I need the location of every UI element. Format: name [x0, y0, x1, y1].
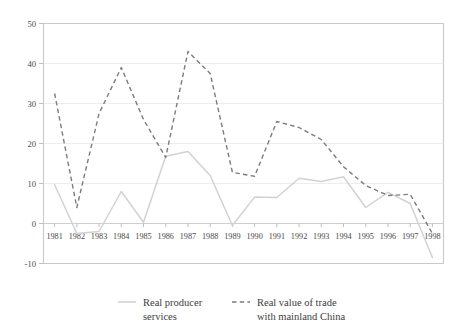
xtick-label-1985: 1985 — [135, 232, 151, 241]
xtick-label-1987: 1987 — [180, 232, 196, 241]
series-line-real-producer-services — [55, 152, 433, 258]
xtick-label-1992: 1992 — [291, 232, 307, 241]
xtick-label-1988: 1988 — [202, 232, 218, 241]
xtick-label-1981: 1981 — [46, 232, 62, 241]
gridlines — [44, 64, 444, 224]
legend: Real producer services Real value of tra… — [118, 297, 345, 322]
legend-label-producer-services-line1: Real producer — [143, 297, 203, 308]
ytick-label-minus10: -10 — [25, 259, 36, 269]
series-line-real-value-of-trade-with-mainland-china — [55, 52, 433, 234]
line-chart: 50 40 30 20 10 0 -10 1981198219831984198… — [0, 0, 463, 336]
xtick-label-1990: 1990 — [246, 232, 262, 241]
ytick-label-30: 30 — [27, 99, 36, 109]
series-group — [55, 52, 433, 258]
x-axis: 1981198219831984198519861987198819891990… — [46, 224, 440, 241]
legend-label-trade-mainland-china-line2: with mainland China — [257, 311, 345, 322]
chart-container: 50 40 30 20 10 0 -10 1981198219831984198… — [0, 0, 463, 336]
ytick-label-40: 40 — [27, 59, 36, 69]
xtick-label-1991: 1991 — [269, 232, 285, 241]
ytick-label-0: 0 — [32, 219, 36, 229]
ytick-label-50: 50 — [27, 19, 36, 29]
y-axis: 50 40 30 20 10 0 -10 — [25, 19, 44, 269]
xtick-label-1984: 1984 — [113, 232, 129, 241]
legend-label-producer-services-line2: services — [143, 311, 177, 322]
xtick-label-1997: 1997 — [402, 232, 418, 241]
legend-label-trade-mainland-china-line1: Real value of trade — [257, 297, 337, 308]
ytick-label-20: 20 — [27, 139, 36, 149]
xtick-label-1996: 1996 — [380, 232, 396, 241]
xtick-label-1993: 1993 — [313, 232, 329, 241]
xtick-label-1986: 1986 — [158, 232, 174, 241]
xtick-label-1994: 1994 — [335, 232, 351, 241]
ytick-label-10: 10 — [27, 179, 36, 189]
xtick-label-1998: 1998 — [424, 232, 440, 241]
xtick-label-1995: 1995 — [358, 232, 374, 241]
xtick-label-1983: 1983 — [91, 232, 107, 241]
xtick-label-1989: 1989 — [224, 232, 240, 241]
